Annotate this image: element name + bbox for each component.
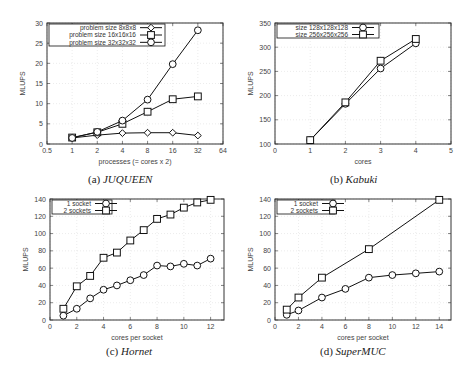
series-line (63, 259, 210, 316)
circle-marker (60, 312, 67, 319)
x-tick-label: 0 (48, 323, 52, 330)
circle-marker (207, 255, 214, 262)
y-tick-label: 0 (267, 317, 271, 324)
circle-marker (194, 262, 201, 269)
x-tick-label: 4 (120, 147, 124, 154)
circle-marker (144, 96, 151, 103)
y-tick-label: 40 (38, 282, 46, 289)
legend: 1 socket2 sockets (52, 200, 117, 214)
circle-marker (180, 260, 187, 267)
x-tick-label: 2 (95, 147, 99, 154)
series-line (287, 272, 440, 315)
circle-marker (295, 307, 302, 314)
plot-frame (275, 23, 451, 144)
chart-c: 024681012020406080100120140cores per soc… (22, 196, 224, 343)
y-tick-label: 5 (39, 120, 43, 127)
x-tick-label: 10 (388, 323, 396, 330)
y-tick-label: 0 (42, 317, 46, 324)
x-tick-label: 1 (308, 147, 312, 154)
circle-marker (319, 294, 326, 301)
y-tick-label: 200 (259, 92, 271, 99)
y-axis-label: MLUPS (247, 247, 254, 271)
square-marker (319, 274, 326, 281)
legend-label: 2 sockets (291, 207, 319, 214)
circle-marker (436, 268, 443, 275)
y-tick-label: 40 (263, 282, 271, 289)
x-axis-label: cores per socket (337, 334, 388, 342)
y-tick-label: 10 (35, 100, 43, 107)
caption-d-name: SuperMUC (336, 345, 386, 357)
caption-b-name: Kabuki (346, 173, 378, 185)
figure-canvas: 0.51248163264051015202530processes (= co… (0, 0, 472, 378)
caption-a: (a) JUQUEEN (88, 173, 152, 185)
chart-d: 02468101214020406080100120140cores per s… (247, 196, 451, 343)
y-tick-label: 60 (38, 265, 46, 272)
square-marker (377, 57, 384, 64)
square-marker (87, 273, 94, 280)
series-line (310, 43, 416, 140)
square-marker (207, 196, 214, 203)
legend-square-icon (148, 32, 155, 39)
y-tick-label: 150 (259, 116, 271, 123)
legend-circle-icon (330, 200, 337, 207)
x-tick-label: 4 (320, 323, 324, 330)
square-marker (169, 96, 176, 103)
circle-marker (154, 262, 161, 269)
circle-marker (119, 117, 126, 124)
chart-b: 012345100150200250300350coresMLUPSsize 1… (247, 20, 453, 166)
square-marker (154, 215, 161, 222)
circle-marker (127, 277, 134, 284)
x-tick-label: 0.5 (42, 147, 52, 154)
square-marker (295, 294, 302, 301)
circle-marker (194, 27, 201, 34)
x-tick-label: 2 (297, 323, 301, 330)
square-marker (194, 199, 201, 206)
square-marker (73, 283, 80, 290)
y-axis-label: MLUPS (247, 71, 254, 95)
x-tick-label: 32 (194, 147, 202, 154)
circle-marker (342, 285, 349, 292)
square-marker (365, 246, 372, 253)
legend-label: 2 sockets (64, 207, 92, 214)
y-tick-label: 350 (259, 20, 271, 27)
square-marker (144, 108, 151, 115)
legend-square-icon (330, 207, 337, 214)
series-0 (69, 129, 202, 141)
square-marker (167, 211, 174, 218)
caption-d: (d) SuperMUC (320, 345, 386, 357)
caption-c-name: Hornet (121, 345, 152, 357)
caption-c: (c) Hornet (106, 345, 152, 357)
y-tick-label: 250 (259, 68, 271, 75)
legend-circle-icon (148, 39, 155, 46)
legend-label: size 128x128x128 (296, 24, 349, 31)
legend-label: 1 socket (67, 200, 91, 207)
square-marker (180, 204, 187, 211)
circle-marker (100, 286, 107, 293)
y-tick-label: 80 (263, 247, 271, 254)
y-tick-label: 60 (263, 265, 271, 272)
legend: 1 socket2 sockets (277, 200, 344, 214)
y-tick-labels: 020406080100120140 (34, 196, 46, 324)
x-axis-label: cores per socket (111, 334, 162, 342)
y-tick-label: 140 (259, 196, 271, 203)
y-tick-label: 15 (35, 80, 43, 87)
x-tick-label: 12 (412, 323, 420, 330)
square-marker (307, 137, 314, 144)
x-tick-label: 6 (128, 323, 132, 330)
y-tick-labels: 051015202530 (35, 20, 43, 148)
circle-marker (94, 129, 101, 136)
plot-frame (275, 199, 451, 320)
y-tick-label: 25 (35, 40, 43, 47)
x-tick-labels: 02468101214 (273, 323, 443, 330)
diamond-marker (119, 130, 126, 137)
chart-a: 0.51248163264051015202530processes (= co… (19, 20, 227, 167)
circle-marker (87, 295, 94, 302)
circle-marker (167, 263, 174, 270)
series-1 (307, 36, 419, 144)
diamond-marker (144, 129, 151, 136)
diamond-marker (194, 132, 201, 139)
series-0 (307, 40, 419, 144)
caption-c-label: (c) (106, 345, 118, 357)
y-tick-label: 140 (34, 196, 46, 203)
x-tick-label: 4 (414, 147, 418, 154)
